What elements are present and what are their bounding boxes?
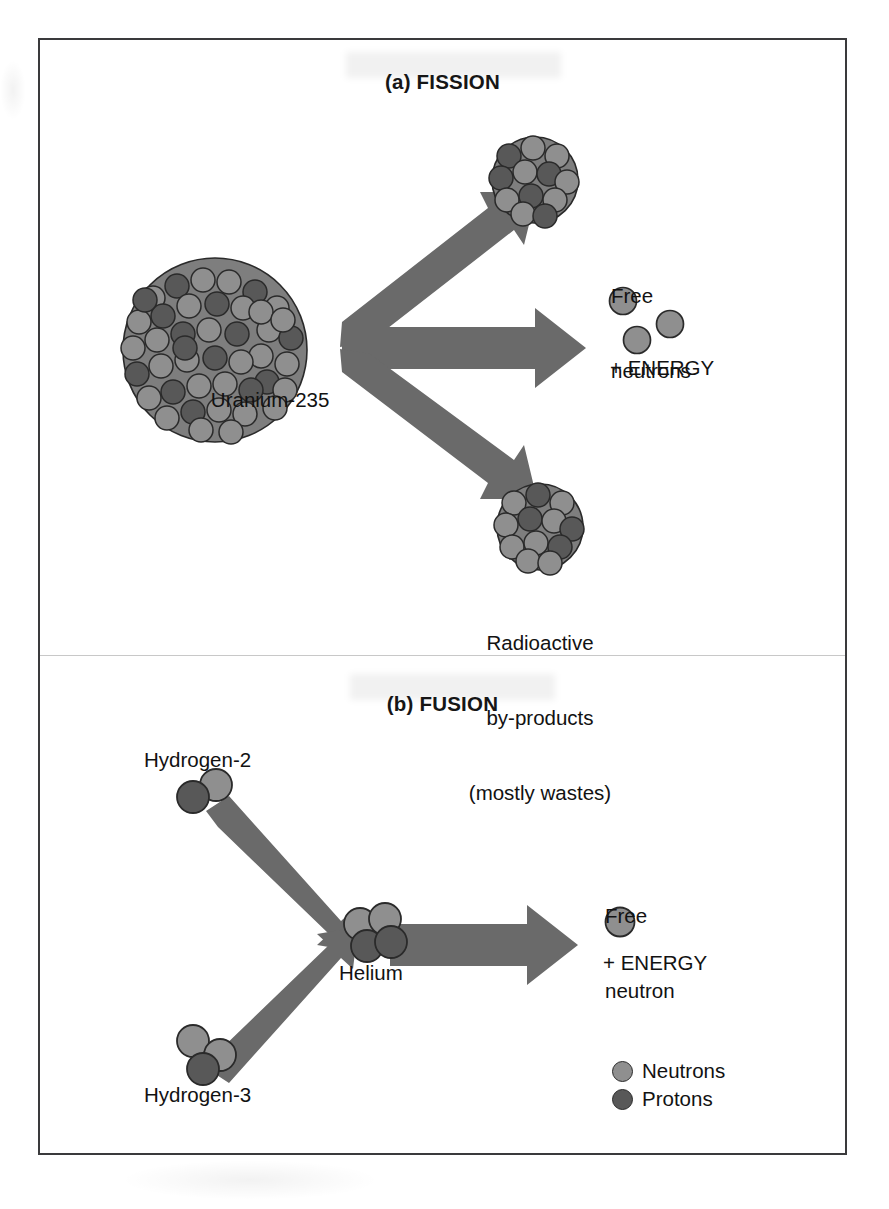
fusion-arrows <box>206 796 578 1083</box>
scan-artifact-left <box>0 60 26 120</box>
proton <box>177 781 209 813</box>
neutron <box>177 1025 209 1057</box>
legend: Neutrons Protons <box>612 1057 725 1113</box>
scan-artifact-bottom <box>120 1160 380 1200</box>
hydrogen-2-label: Hydrogen-2 <box>144 747 251 772</box>
fission-arrows <box>340 192 586 499</box>
proton-swatch-icon <box>612 1089 633 1110</box>
fission-arrow-right <box>342 308 586 388</box>
hydrogen-2-nucleus <box>177 769 232 813</box>
legend-label-protons: Protons <box>642 1087 713 1111</box>
proton <box>375 926 407 958</box>
neutron-swatch-icon <box>612 1061 633 1082</box>
figure-frame: (a) FISSION <box>38 38 847 1155</box>
fission-arrow-down <box>340 349 537 499</box>
proton <box>187 1053 219 1085</box>
legend-item-protons: Protons <box>612 1085 725 1113</box>
fusion-energy-label: + ENERGY <box>603 950 707 975</box>
neutron <box>369 903 401 935</box>
fusion-arrow-from-hydrogen-2 <box>206 796 358 952</box>
fission-panel: (a) FISSION <box>40 40 845 655</box>
fusion-arrow-from-hydrogen-3 <box>206 927 358 1083</box>
free-neutrons-label: Free neutrons <box>611 233 691 433</box>
hydrogen-3-label: Hydrogen-3 <box>144 1082 251 1107</box>
fission-fragment-top <box>489 136 579 228</box>
proton <box>351 930 383 962</box>
uranium-235-label: Uranium-235 <box>177 362 330 437</box>
panel-divider <box>40 655 845 656</box>
fission-fragment-bottom <box>494 483 584 575</box>
legend-label-neutrons: Neutrons <box>642 1059 725 1083</box>
fusion-panel-title: (b) FUSION <box>40 692 845 716</box>
fission-arrow-up <box>340 192 537 347</box>
fission-artwork <box>40 40 849 655</box>
hydrogen-3-nucleus <box>177 1025 236 1085</box>
helium-label: Helium <box>339 960 403 985</box>
neutron <box>204 1039 236 1071</box>
fission-panel-title: (a) FISSION <box>40 70 845 94</box>
fusion-arrow-to-neutron <box>390 905 578 985</box>
fusion-artwork <box>40 657 849 1155</box>
neutron <box>344 908 376 940</box>
fusion-panel: (b) FUSION <box>40 657 845 1155</box>
neutron <box>200 769 232 801</box>
helium-nucleus <box>344 903 407 962</box>
legend-item-neutrons: Neutrons <box>612 1057 725 1085</box>
fission-energy-label: + ENERGY <box>610 355 714 380</box>
